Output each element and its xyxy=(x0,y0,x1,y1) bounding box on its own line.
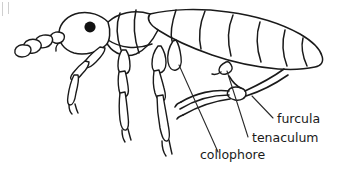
midleg-coxa xyxy=(118,50,130,74)
springtail-line-drawing: furcula tenaculum collophore xyxy=(0,0,341,182)
eye-icon xyxy=(84,22,95,33)
antenna-segment-1 xyxy=(15,45,31,57)
label-furcula: furcula xyxy=(277,111,320,126)
label-tenaculum: tenaculum xyxy=(252,130,319,145)
label-collophore: collophore xyxy=(200,147,265,162)
furcula-manubrium xyxy=(227,87,246,100)
springtail-diagram-figure: furcula tenaculum collophore xyxy=(0,0,341,182)
